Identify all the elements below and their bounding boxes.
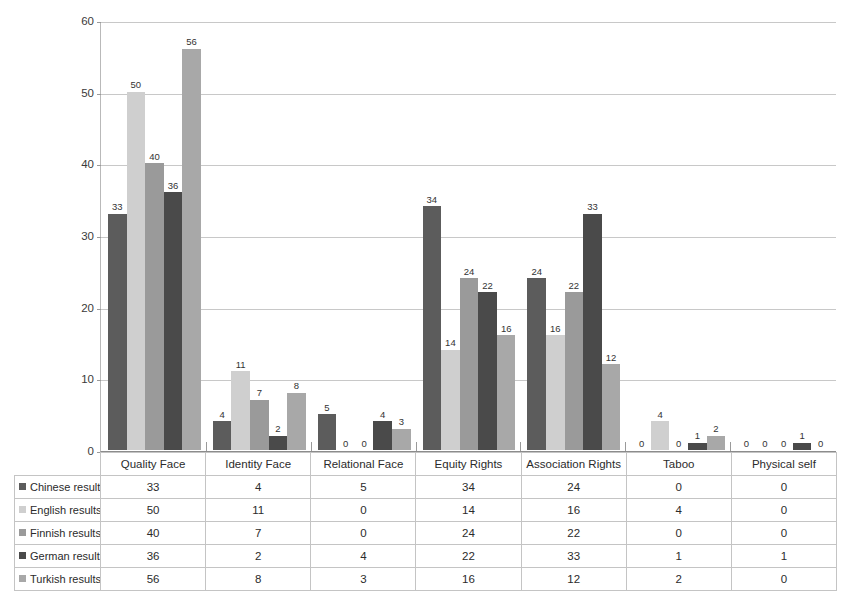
table-row: Turkish results5683161220: [15, 568, 837, 591]
y-axis-tick-mark: [97, 22, 101, 23]
bar-value-label: 14: [445, 338, 456, 348]
bar[interactable]: [213, 421, 232, 450]
bar[interactable]: [373, 421, 392, 450]
legend-swatch-icon: [19, 529, 26, 536]
bar[interactable]: [423, 206, 442, 450]
bar-slot: 1: [793, 22, 812, 450]
bar-slot: 34: [423, 22, 442, 450]
table-cell: 24: [416, 522, 521, 545]
bar-groups: 3350403656411728500433414242216241622331…: [102, 22, 836, 450]
bar[interactable]: [478, 292, 497, 450]
legend-swatch-icon: [19, 552, 26, 559]
bar[interactable]: [527, 278, 546, 450]
bar[interactable]: [460, 278, 479, 450]
bar[interactable]: [793, 443, 812, 450]
bar[interactable]: [583, 214, 602, 451]
bar-slot: 8: [287, 22, 306, 450]
bar-slot: 0: [811, 22, 830, 450]
bar[interactable]: [707, 436, 726, 450]
bar-value-label: 1: [800, 431, 805, 441]
bar-slot: 4: [213, 22, 232, 450]
bar-slot: 0: [774, 22, 793, 450]
bar[interactable]: [127, 92, 146, 450]
bar-value-label: 0: [762, 439, 767, 449]
bar[interactable]: [287, 393, 306, 450]
bar[interactable]: [164, 192, 183, 450]
table-column-header: Association Rights: [521, 453, 626, 476]
table-column-header: Taboo: [626, 453, 731, 476]
bar[interactable]: [145, 163, 164, 450]
bar-value-label: 1: [695, 431, 700, 441]
bar-slot: 0: [669, 22, 688, 450]
table-cell: 34: [416, 476, 521, 499]
bar[interactable]: [392, 429, 411, 451]
table-cell: 2: [626, 568, 731, 591]
legend-swatch-icon: [19, 483, 26, 490]
bar-value-label: 0: [676, 439, 681, 449]
bar[interactable]: [231, 371, 250, 450]
table-cell: 40: [101, 522, 206, 545]
chart-page: 0102030405060 33504036564117285004334142…: [0, 0, 850, 593]
table-cell: 24: [521, 476, 626, 499]
bar-slot: 7: [250, 22, 269, 450]
bar-slot: 4: [373, 22, 392, 450]
bar-value-label: 5: [324, 403, 329, 413]
table-cell: 33: [521, 545, 626, 568]
bar-slot: 40: [145, 22, 164, 450]
bar[interactable]: [688, 443, 707, 450]
bar-value-label: 0: [639, 439, 644, 449]
bar-slot: 0: [336, 22, 355, 450]
y-axis-tick-label: 60: [81, 16, 94, 28]
data-table: Quality FaceIdentity FaceRelational Face…: [14, 452, 837, 591]
table-corner-cell: [15, 453, 101, 476]
bar-value-label: 24: [531, 267, 542, 277]
table-cell: 1: [731, 545, 836, 568]
bar-value-label: 0: [744, 439, 749, 449]
data-table-wrapper: Quality FaceIdentity FaceRelational Face…: [14, 452, 836, 591]
bar[interactable]: [182, 49, 201, 450]
table-cell: 0: [626, 522, 731, 545]
bar-value-label: 33: [587, 202, 598, 212]
y-axis: 0102030405060: [52, 22, 94, 452]
table-column-header: Equity Rights: [416, 453, 521, 476]
bar-slot: 16: [546, 22, 565, 450]
legend-row-header: German results: [15, 545, 101, 568]
bar[interactable]: [269, 436, 288, 450]
bar-value-label: 4: [219, 410, 224, 420]
bar-slot: 1: [688, 22, 707, 450]
table-cell: 0: [731, 499, 836, 522]
legend-series-label: German results: [30, 551, 101, 563]
y-axis-tick-label: 10: [81, 375, 94, 387]
bar-value-label: 0: [361, 439, 366, 449]
bar-group: 50043: [312, 22, 417, 450]
bar[interactable]: [565, 292, 584, 450]
bar-value-label: 0: [343, 439, 348, 449]
bar[interactable]: [602, 364, 621, 450]
bar-value-label: 16: [501, 324, 512, 334]
table-cell: 50: [101, 499, 206, 522]
bar[interactable]: [651, 421, 670, 450]
bar[interactable]: [546, 335, 565, 450]
bar-value-label: 4: [380, 410, 385, 420]
bar[interactable]: [250, 400, 269, 450]
bar-value-label: 40: [149, 152, 160, 162]
bar-group-bars: 3350403656: [102, 22, 207, 450]
bar[interactable]: [108, 214, 127, 451]
table-cell: 1: [626, 545, 731, 568]
bar-slot: 0: [632, 22, 651, 450]
bar-group: 2416223312: [521, 22, 626, 450]
legend-swatch-icon: [19, 506, 26, 513]
legend-row-header: Chinese results: [15, 476, 101, 499]
table-cell: 5: [311, 476, 416, 499]
bar[interactable]: [497, 335, 516, 450]
bar-slot: 56: [182, 22, 201, 450]
y-axis-tick-label: 20: [81, 303, 94, 315]
table-cell: 0: [731, 568, 836, 591]
bar[interactable]: [441, 350, 460, 450]
bar-value-label: 8: [294, 381, 299, 391]
table-cell: 0: [311, 522, 416, 545]
table-cell: 0: [731, 522, 836, 545]
table-cell: 12: [521, 568, 626, 591]
bar[interactable]: [318, 414, 337, 450]
bar-group: 3350403656: [102, 22, 207, 450]
